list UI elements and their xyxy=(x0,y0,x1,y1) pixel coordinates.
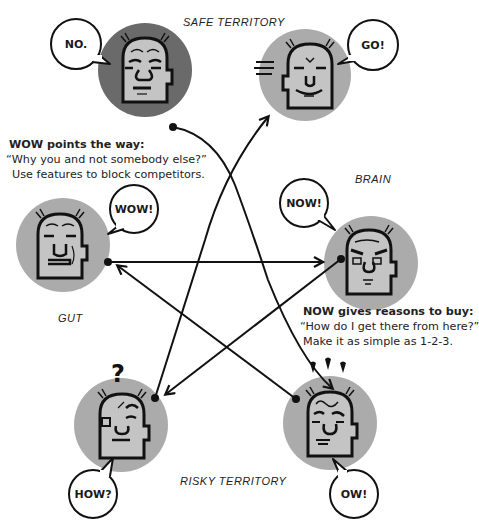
gut-label: GUT xyxy=(58,312,84,324)
brain-label: BRAIN xyxy=(355,173,391,185)
wow-note-heading: WOW points the way: xyxy=(6,137,207,152)
bubble-text-wow: WOW! xyxy=(115,203,154,216)
now-note-heading: NOW gives reasons to buy: xyxy=(300,304,479,319)
smiling-face-icon xyxy=(283,44,332,108)
speech-bubble-no: NO. xyxy=(51,19,110,69)
speech-bubble-wow: WOW! xyxy=(108,185,158,234)
bubble-text-how: HOW? xyxy=(74,488,111,501)
risky-territory-label: RISKY TERRITORY xyxy=(180,475,286,487)
speech-bubble-go: GO! xyxy=(338,20,398,70)
wow-note-line1: “Why you and not somebody else?” xyxy=(6,152,207,167)
arrow-ow-to-wow xyxy=(118,266,296,399)
safe-territory-label: SAFE TERRITORY xyxy=(183,16,285,28)
face-go: GO! xyxy=(254,20,398,121)
speech-bubble-ow: OW! xyxy=(330,459,378,518)
wow-note-line2: Use features to block competitors. xyxy=(6,167,207,182)
now-note-line2: Make it as simple as 1-2-3. xyxy=(300,334,479,349)
face-how: ? HOW? xyxy=(69,360,168,518)
now-note-line1: “How do I get there from here?” xyxy=(300,319,479,334)
face-wow: WOW! xyxy=(16,185,158,292)
wow-note: WOW points the way: “Why you and not som… xyxy=(6,137,207,182)
speech-bubble-now: NOW! xyxy=(280,179,335,230)
bubble-text-no: NO. xyxy=(65,38,88,51)
speech-bubble-how: HOW? xyxy=(69,458,117,518)
face-ow: OW! xyxy=(283,358,378,519)
bubble-text-ow: OW! xyxy=(341,488,368,501)
question-mark-icon: ? xyxy=(111,360,125,388)
face-no: NO. xyxy=(51,19,192,117)
bubble-text-now: NOW! xyxy=(286,197,322,210)
bubble-text-go: GO! xyxy=(361,39,384,52)
now-note: NOW gives reasons to buy: “How do I get … xyxy=(300,304,479,349)
